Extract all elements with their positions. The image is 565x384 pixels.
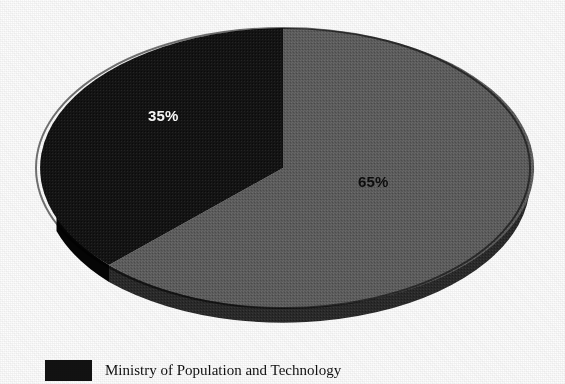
pie-chart: 35% 65%: [0, 0, 565, 340]
legend-item: Ministry of Population and Technology: [0, 360, 341, 381]
pie-chart-svg: [0, 0, 565, 340]
chart-page: 35% 65% Ministry of Population and Techn…: [0, 0, 565, 384]
chart-legend: Ministry of Population and Technology: [0, 360, 565, 384]
pie-label-dark-slice: 35%: [148, 107, 179, 124]
legend-item-label: Ministry of Population and Technology: [105, 360, 341, 380]
pie-label-light-slice: 65%: [358, 173, 389, 190]
legend-swatch-icon: [45, 360, 92, 381]
